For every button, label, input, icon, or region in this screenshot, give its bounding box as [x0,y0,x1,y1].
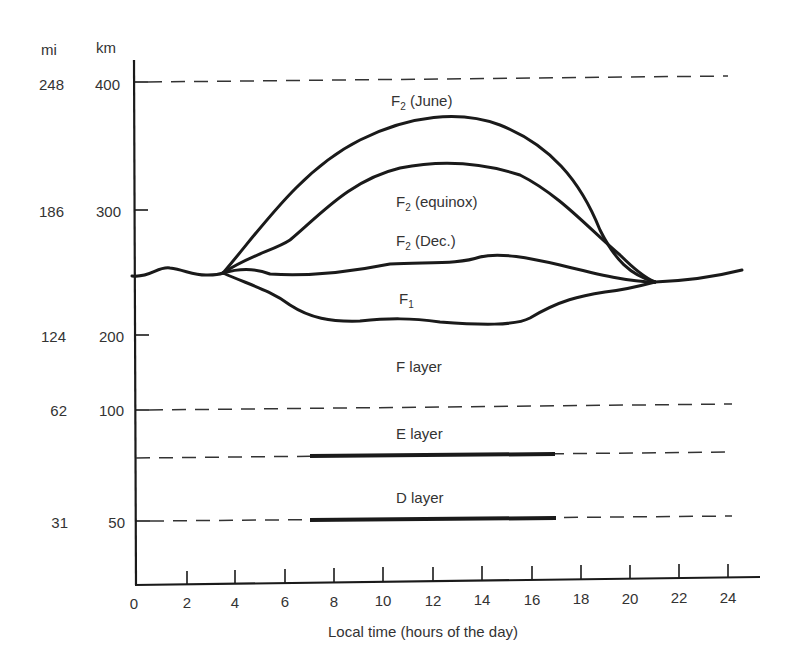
svg-text:22: 22 [671,589,688,606]
svg-text:8: 8 [330,593,338,610]
y-mi-186: 186 [39,203,64,220]
mi-unit-label: mi [41,41,57,58]
curve-f1 [223,273,655,324]
y-mi-248: 248 [39,76,64,93]
km-unit-label: km [96,39,116,56]
y-mi-124: 124 [41,328,66,345]
svg-text:20: 20 [622,590,639,607]
x-axis [135,577,760,585]
y-km-400: 400 [95,76,120,93]
label-e-layer: E layer [396,425,443,442]
svg-text:12: 12 [425,592,442,609]
label-d-layer: D layer [396,489,444,506]
svg-text:0: 0 [130,595,138,612]
svg-text:18: 18 [573,590,590,607]
svg-text:6: 6 [281,593,289,610]
y-km-100: 100 [99,402,124,419]
svg-text:10: 10 [375,592,392,609]
dashed-line-400km [148,76,728,82]
svg-text:16: 16 [524,591,541,608]
x-tick-labels: 0 2 4 6 8 10 12 14 16 18 20 22 24 [130,589,737,612]
curve-f-night-right [655,270,742,282]
svg-text:4: 4 [231,594,239,611]
label-f-layer: F layer [396,358,442,375]
label-f2-dec: F2 (Dec.) [396,232,456,252]
y-mi-62: 62 [50,402,67,419]
d-layer-bar [310,518,556,520]
label-f1: F1 [399,290,414,310]
curve-f2-dec [223,255,655,282]
x-axis-title: Local time (hours of the day) [328,623,518,640]
dashed-line-100km [149,404,732,410]
curve-f2-equinox [223,163,655,282]
y-km-50: 50 [108,514,125,531]
label-f2-june: F2 (June) [391,92,452,112]
e-layer-bar [310,454,555,456]
y-km-200: 200 [99,328,124,345]
y-km-300: 300 [96,203,121,220]
curve-f-night-left [132,268,223,276]
svg-text:24: 24 [720,589,737,606]
y-axis [134,60,136,585]
label-f2-equinox: F2 (equinox) [396,193,477,213]
ionosphere-diagram: mi km 248 186 124 62 31 400 300 200 100 … [0,0,788,670]
y-mi-31: 31 [51,514,68,531]
curves [132,117,742,325]
svg-text:2: 2 [183,594,191,611]
svg-text:14: 14 [474,591,491,608]
